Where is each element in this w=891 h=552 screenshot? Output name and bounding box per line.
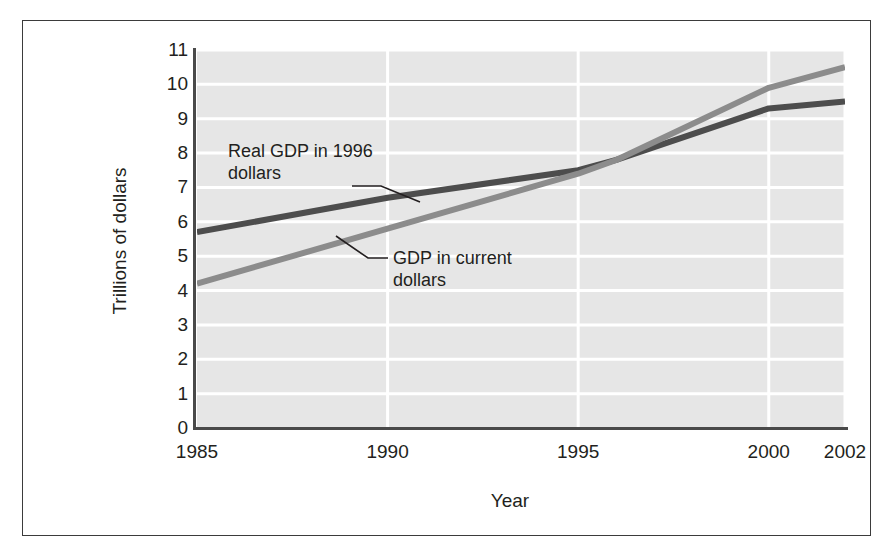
annotation-real-gdp: Real GDP in 1996 dollars <box>228 140 373 184</box>
x-axis-tick-label: 1995 <box>533 441 623 463</box>
x-axis-tick-label: 1985 <box>152 441 242 463</box>
x-axis-tick-label: 2002 <box>800 441 890 463</box>
annotation-current-gdp: GDP in current dollars <box>393 247 512 291</box>
y-axis-title: Trillions of dollars <box>109 111 131 371</box>
x-axis-tick-label: 1990 <box>343 441 433 463</box>
x-axis-title: Year <box>420 490 600 512</box>
gdp-line-chart: 01234567891011 19851990199520002002 Tril… <box>0 0 891 552</box>
